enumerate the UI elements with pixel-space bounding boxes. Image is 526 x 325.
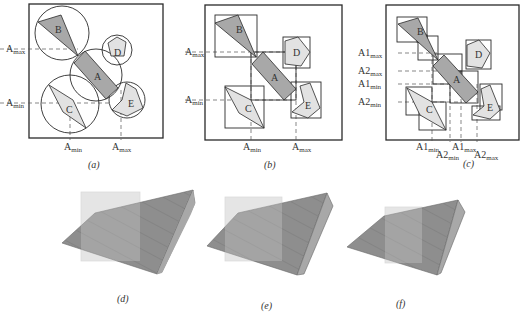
panel-e: (e) xyxy=(207,193,333,312)
panel-c: B A D C E A1max A2max A1min A2min A1min … xyxy=(358,5,519,170)
svg-text:A2min: A2min xyxy=(358,96,382,109)
svg-text:A2max: A2max xyxy=(474,149,499,162)
svg-text:C: C xyxy=(245,103,252,114)
panel-a: B A D C E Amax Amin Amin Amax (a) xyxy=(0,4,163,171)
panel-b: B A D C E Amax Amin Amin Amax (b) xyxy=(185,5,342,171)
svg-text:B: B xyxy=(55,24,62,35)
svg-text:E: E xyxy=(128,98,134,109)
svg-text:Amin: Amin xyxy=(185,94,204,107)
svg-text:E: E xyxy=(487,102,493,113)
caption-a: (a) xyxy=(88,159,100,171)
svg-text:A2max: A2max xyxy=(358,65,383,78)
svg-text:Amin: Amin xyxy=(243,141,262,154)
svg-text:Amax: Amax xyxy=(6,43,26,56)
svg-text:B: B xyxy=(417,26,424,37)
svg-text:D: D xyxy=(475,49,482,60)
svg-text:A: A xyxy=(271,72,279,83)
svg-text:C: C xyxy=(66,104,73,115)
caption-b: (b) xyxy=(264,159,276,171)
svg-text:E: E xyxy=(305,100,311,111)
svg-text:Amax: Amax xyxy=(112,141,132,154)
svg-text:Amax: Amax xyxy=(185,46,205,59)
caption-e: (e) xyxy=(261,300,273,312)
svg-text:B: B xyxy=(236,24,243,35)
svg-text:Amax: Amax xyxy=(292,141,312,154)
caption-f: (f) xyxy=(396,298,406,310)
panel-f: (f) xyxy=(347,200,465,310)
panel-d: (d) xyxy=(62,190,195,305)
svg-text:Amin: Amin xyxy=(6,97,25,110)
object-b xyxy=(215,15,256,57)
object-b xyxy=(38,15,78,56)
figure-canvas: B A D C E Amax Amin Amin Amax (a) B A D … xyxy=(0,0,526,325)
svg-text:A1max: A1max xyxy=(358,47,383,60)
svg-text:A: A xyxy=(453,74,461,85)
svg-text:D: D xyxy=(293,47,300,58)
svg-text:Amin: Amin xyxy=(64,141,83,154)
svg-text:A: A xyxy=(94,71,102,82)
caption-d: (d) xyxy=(117,293,129,305)
caption-c: (c) xyxy=(463,158,475,170)
overlay-translucent xyxy=(81,192,140,261)
svg-text:D: D xyxy=(114,47,121,58)
svg-text:C: C xyxy=(426,104,433,115)
svg-text:A1min: A1min xyxy=(358,78,382,91)
